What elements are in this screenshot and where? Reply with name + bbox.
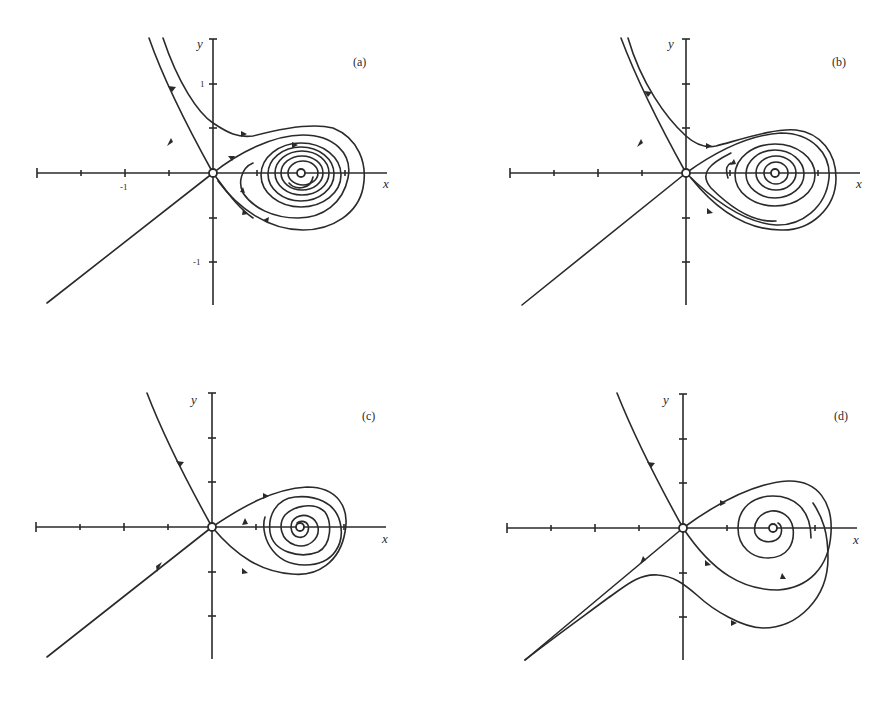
saddle-point xyxy=(209,169,217,177)
focus-point xyxy=(297,169,305,177)
stable-manifold-upper xyxy=(617,393,683,528)
x-axis-label: x xyxy=(855,176,862,191)
arrow-icon xyxy=(780,573,786,579)
arrow-icon xyxy=(707,208,713,214)
y-axis-label: y xyxy=(195,36,203,51)
outer-trajectory xyxy=(628,38,836,230)
panel-a: y x -1 1 -1 (a) xyxy=(37,36,389,305)
x-axis-label: x xyxy=(381,531,388,546)
saddle-point xyxy=(208,523,216,531)
focus-point xyxy=(771,169,779,177)
tick-label-y-pos1: 1 xyxy=(200,79,205,89)
arrow-icon xyxy=(176,461,184,467)
x-axis-label: x xyxy=(852,532,859,547)
unstable-manifold-lower xyxy=(47,527,212,657)
arrow-icon xyxy=(167,138,173,146)
panel-label: (a) xyxy=(353,55,366,69)
saddle-point xyxy=(679,524,687,532)
phase-portrait-figure: y x -1 1 -1 (a) xyxy=(0,0,894,702)
unstable-manifold-lower xyxy=(522,173,686,305)
panel-d: y x (d) xyxy=(507,392,859,660)
focus-point xyxy=(296,523,304,531)
panel-label: (c) xyxy=(362,409,375,423)
stable-manifold-upper xyxy=(149,38,213,173)
x-axis-label: x xyxy=(382,176,389,191)
tick-label-y-neg1: -1 xyxy=(193,257,201,267)
unstable-manifold-lower xyxy=(47,173,213,303)
unstable-manifold-lower xyxy=(525,528,683,660)
panel-label: (d) xyxy=(834,409,848,423)
y-axis-label: y xyxy=(661,392,669,407)
unstable-manifold-spiral xyxy=(212,487,346,574)
panel-label: (b) xyxy=(832,55,846,69)
saddle-point xyxy=(682,169,690,177)
arrow-icon xyxy=(263,493,269,499)
stable-manifold-upper xyxy=(621,38,686,173)
arrow-icon xyxy=(730,159,736,165)
stable-manifold-upper xyxy=(147,393,212,527)
panel-b: y x (b) xyxy=(510,36,862,305)
panel-c: y x (c) xyxy=(36,392,388,659)
arrow-icon xyxy=(640,556,646,564)
lower-trajectory xyxy=(525,503,828,660)
tick-label-x-neg1: -1 xyxy=(120,182,128,192)
outer-trajectory xyxy=(163,38,364,230)
arrow-icon xyxy=(647,462,655,468)
arrow-icon xyxy=(242,518,248,525)
arrow-icon xyxy=(242,568,248,574)
arrow-icon xyxy=(706,143,712,149)
arrow-icon xyxy=(637,139,643,147)
y-axis-label: y xyxy=(666,36,674,51)
y-axis-label: y xyxy=(189,392,197,407)
focus-point xyxy=(769,524,777,532)
